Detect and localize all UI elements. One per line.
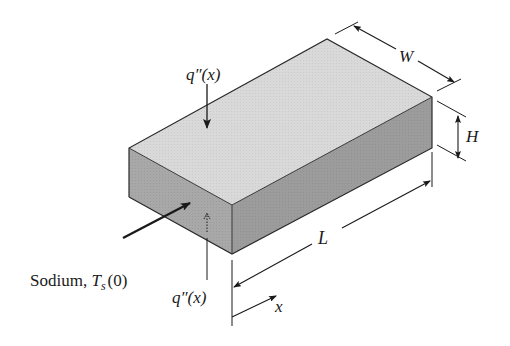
- diagram-canvas: q″(x) Sodium, Ts(0) q″(x) W H: [0, 0, 510, 346]
- width-label: W: [399, 47, 415, 66]
- height-label: H: [465, 127, 480, 146]
- x-axis-label: x: [274, 297, 283, 316]
- length-label: L: [317, 228, 328, 248]
- channel-diagram: q″(x) Sodium, Ts(0) q″(x) W H: [0, 0, 510, 346]
- channel-box: [129, 39, 432, 254]
- x-axis-arrow: [232, 296, 276, 317]
- heat-flux-bottom-label: q″(x): [172, 288, 207, 307]
- height-dimension: [437, 101, 466, 161]
- heat-flux-top-label: q″(x): [186, 65, 221, 84]
- sodium-inlet-label: Sodium, Ts(0): [30, 271, 127, 293]
